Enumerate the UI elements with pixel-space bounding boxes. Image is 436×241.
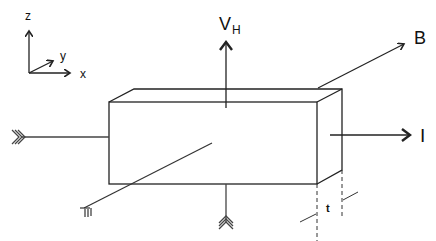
thickness-label: t xyxy=(326,202,330,214)
current-in-feather-icon xyxy=(12,130,109,144)
hall-voltage-label: V xyxy=(219,14,231,34)
hall-voltage-subscript: H xyxy=(232,23,241,37)
axis-y-label: y xyxy=(60,49,66,63)
magnetic-field-feather-icon xyxy=(80,143,212,217)
axis-x-label: x xyxy=(80,67,86,81)
current-label: I xyxy=(420,125,425,146)
hall-effect-diagram: z y x V H B I t xyxy=(0,0,436,241)
hall-voltage-feather-icon xyxy=(219,184,233,229)
magnetic-field-arrow xyxy=(318,44,404,88)
axis-z-label: z xyxy=(25,9,31,23)
magnetic-field-label: B xyxy=(414,28,426,48)
